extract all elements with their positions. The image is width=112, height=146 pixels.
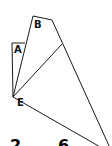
label-a: A (14, 44, 22, 55)
bottom-cut-text-left: 2 (10, 136, 21, 146)
label-b: B (34, 19, 42, 30)
geometry-diagram: A B E 2 6 (0, 0, 112, 146)
bottom-cut-text-right: 6 (58, 136, 69, 146)
outer-right-edge (52, 20, 110, 146)
label-e: E (17, 97, 24, 108)
region-b-outline (13, 16, 52, 97)
